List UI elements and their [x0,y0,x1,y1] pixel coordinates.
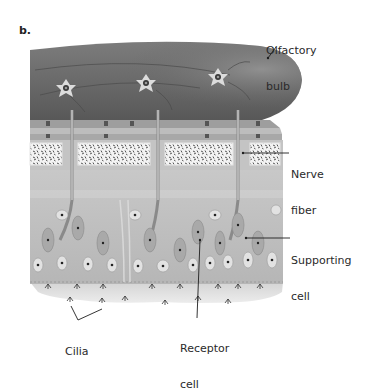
panel-label: b. [19,24,31,37]
label-nerve-fiber: Nerve fiber [291,145,324,229]
label-receptor-cell: Receptor cell [180,319,229,392]
label-supporting-cell: Supporting cell [291,231,352,315]
label-olfactory-bulb: Olfactory bulb [266,21,316,105]
olfactory-bulb [30,42,302,120]
label-cilia: Cilia [65,322,89,370]
